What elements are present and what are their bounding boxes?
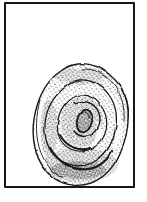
spiral-sketch-drawing: Hand-drawn pen sketch of a coiled spiral…	[0, 0, 147, 202]
sketch-body	[33, 64, 128, 186]
scanned-page: Hand-drawn pen sketch of a coiled spiral…	[0, 0, 147, 202]
